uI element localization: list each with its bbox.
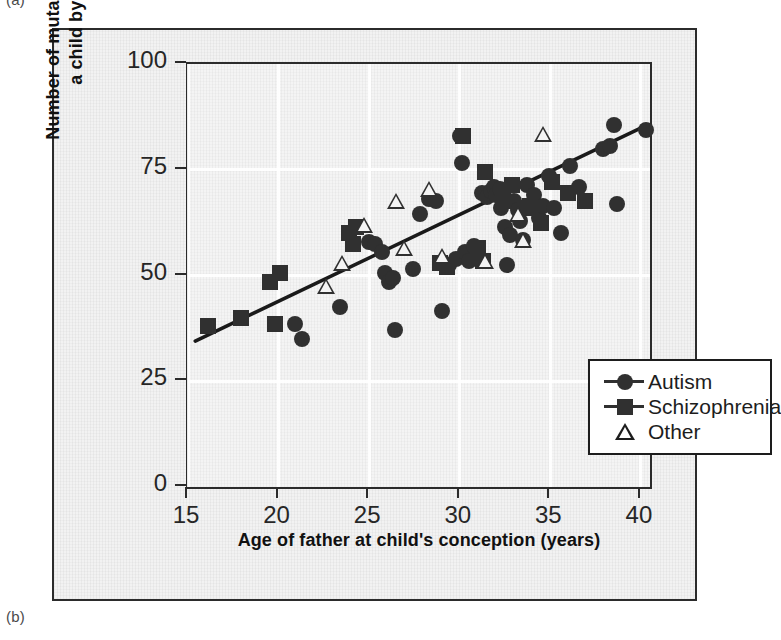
data-point-circle [374, 244, 390, 260]
data-point-square [272, 265, 288, 281]
legend-item-other: Other [602, 419, 760, 444]
data-point-triangle [420, 181, 438, 197]
data-point-square [544, 174, 560, 190]
data-point-triangle [317, 278, 335, 294]
legend-marker-square-icon [602, 394, 648, 419]
data-point-square [233, 310, 249, 326]
data-point-circle [562, 158, 578, 174]
x-tick-mark [366, 487, 368, 498]
x-tick-mark [276, 487, 278, 498]
x-tick-label: 15 [156, 501, 216, 529]
data-point-triangle [534, 126, 552, 142]
legend-label: Autism [648, 370, 712, 394]
legend-label: Other [648, 420, 701, 444]
x-tick-mark [638, 487, 640, 498]
legend-label: Schizophrenia [648, 395, 781, 419]
data-point-circle [405, 261, 421, 277]
data-point-square [504, 177, 520, 193]
x-tick-mark [185, 487, 187, 498]
y-tick-label: 50 [107, 258, 167, 286]
y-tick-mark [175, 273, 186, 275]
y-tick-label: 0 [107, 469, 167, 497]
y-tick-label: 75 [107, 152, 167, 180]
data-point-square [560, 185, 576, 201]
data-point-circle [609, 196, 625, 212]
data-point-circle [638, 122, 654, 138]
data-point-square [345, 236, 361, 252]
data-point-circle [287, 316, 303, 332]
data-point-triangle [509, 206, 527, 222]
data-point-circle [294, 331, 310, 347]
y-tick-mark [175, 378, 186, 380]
data-point-square [577, 193, 593, 209]
trendline [188, 64, 650, 487]
data-point-triangle [514, 232, 532, 248]
data-point-circle [499, 257, 515, 273]
chart-legend: Autism Schizophrenia Other [588, 359, 772, 455]
x-tick-label: 25 [337, 501, 397, 529]
y-tick-label: 25 [107, 363, 167, 391]
figure-frame: Number of mutations transmitted toa chil… [52, 28, 697, 601]
data-point-triangle [395, 240, 413, 256]
legend-item-autism: Autism [602, 369, 760, 394]
data-point-square [267, 316, 283, 332]
data-point-triangle [433, 248, 451, 264]
y-tick-mark [175, 484, 186, 486]
x-tick-label: 40 [609, 501, 669, 529]
data-point-circle [454, 155, 470, 171]
x-tick-label: 20 [247, 501, 307, 529]
x-tick-mark [547, 487, 549, 498]
data-point-triangle [355, 217, 373, 233]
data-point-triangle [476, 253, 494, 269]
legend-marker-circle-icon [602, 369, 648, 394]
data-point-triangle [333, 255, 351, 271]
data-point-circle [387, 322, 403, 338]
plot-area: Autism Schizophrenia Other [186, 62, 652, 489]
data-point-circle [385, 270, 401, 286]
data-point-circle [606, 117, 622, 133]
data-point-square [477, 164, 493, 180]
data-point-triangle [387, 193, 405, 209]
x-tick-label: 30 [428, 501, 488, 529]
legend-item-schizophrenia: Schizophrenia [602, 394, 760, 419]
y-axis-title: Number of mutations transmitted toa chil… [42, 0, 87, 150]
data-point-square [455, 128, 471, 144]
legend-marker-triangle-icon [602, 419, 648, 444]
y-tick-mark [175, 61, 186, 63]
x-axis-title: Age of father at child's conception (yea… [186, 530, 652, 551]
y-tick-mark [175, 167, 186, 169]
data-point-circle [434, 303, 450, 319]
y-tick-label: 100 [107, 46, 167, 74]
data-point-square [200, 318, 216, 334]
data-point-square [533, 215, 549, 231]
x-tick-mark [457, 487, 459, 498]
data-point-circle [546, 200, 562, 216]
data-point-circle [412, 206, 428, 222]
panel-label-a: (a) [6, 0, 25, 8]
panel-label-b: (b) [6, 608, 25, 625]
x-tick-label: 35 [518, 501, 578, 529]
